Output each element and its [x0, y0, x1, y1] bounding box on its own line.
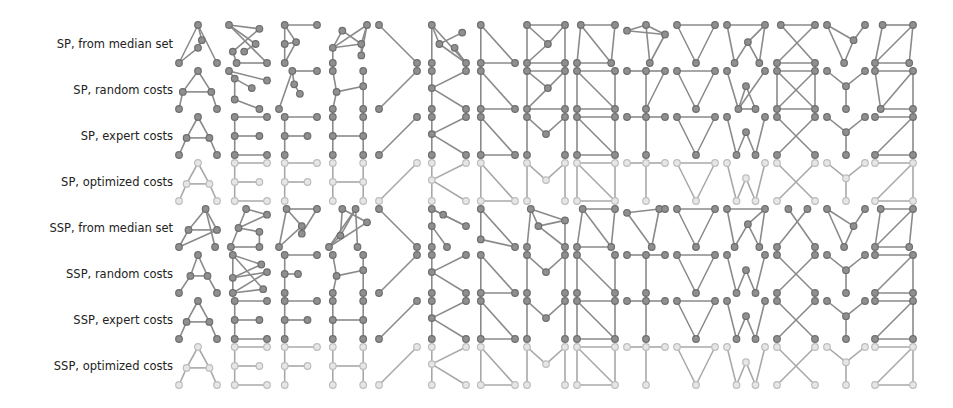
- graph-node: [231, 75, 238, 82]
- graph-node: [712, 160, 719, 167]
- graph-node: [535, 223, 542, 230]
- graph-node: [214, 382, 221, 389]
- graph-node: [291, 81, 298, 88]
- graph-node: [743, 129, 750, 136]
- graph-edge: [577, 209, 583, 247]
- graph-node: [429, 131, 436, 138]
- glyph-grid: [0, 0, 953, 408]
- glyph-w: [724, 252, 769, 297]
- graph-node: [574, 198, 581, 205]
- graph-node: [304, 179, 311, 186]
- graph-node: [376, 382, 383, 389]
- graph-node: [281, 160, 288, 167]
- graph-edge: [611, 209, 615, 247]
- graph-edge: [727, 255, 737, 293]
- graph-edge: [696, 25, 715, 63]
- graph-node: [376, 22, 383, 29]
- graph-node: [330, 298, 337, 305]
- graph-node: [358, 41, 365, 48]
- graph-node: [862, 344, 869, 351]
- graph-node: [674, 68, 681, 75]
- graph-edge: [279, 71, 292, 109]
- graph-node: [910, 68, 917, 75]
- graph-node: [314, 252, 321, 259]
- graph-node: [429, 223, 436, 230]
- graph-node: [524, 68, 531, 75]
- glyph-l: [478, 206, 519, 251]
- graph-node: [724, 252, 731, 259]
- graph-node: [643, 336, 650, 343]
- graph-node: [512, 382, 519, 389]
- glyph-h: [330, 252, 367, 297]
- graph-node: [281, 152, 288, 159]
- graph-edge: [677, 209, 696, 247]
- graph-node: [524, 198, 531, 205]
- graph-node: [414, 252, 421, 259]
- graph-node: [910, 298, 917, 305]
- graph-node: [724, 22, 731, 29]
- graph-node: [212, 244, 219, 251]
- graph-node: [612, 68, 619, 75]
- graph-node: [524, 290, 531, 297]
- graph-node: [231, 114, 238, 121]
- graph-edge: [581, 25, 611, 63]
- graph-node: [712, 22, 719, 29]
- graph-node: [463, 290, 470, 297]
- graph-node: [360, 68, 367, 75]
- graph-node: [264, 382, 271, 389]
- graph-edge: [337, 270, 364, 276]
- graph-node: [824, 344, 831, 351]
- graph-node: [364, 219, 371, 226]
- graph-edge: [756, 255, 766, 293]
- graph-node: [230, 290, 237, 297]
- graph-node: [872, 298, 879, 305]
- graph-node: [733, 336, 740, 343]
- graph-edge: [727, 301, 737, 339]
- graph-node: [662, 160, 669, 167]
- graph-node: [304, 317, 311, 324]
- glyph-x: [774, 298, 819, 343]
- graph-node: [243, 206, 250, 213]
- graph-node: [843, 198, 850, 205]
- graph-node: [643, 106, 650, 113]
- graph-node: [512, 336, 519, 343]
- graph-node: [299, 223, 306, 230]
- graph-node: [910, 290, 917, 297]
- graph-node: [841, 244, 848, 251]
- graph-node: [574, 152, 581, 159]
- graph-node: [752, 106, 759, 113]
- graph-edge: [727, 163, 737, 201]
- graph-node: [360, 317, 367, 324]
- graph-node: [872, 244, 879, 251]
- graph-node: [339, 206, 346, 213]
- graph-edge: [432, 163, 466, 180]
- graph-node: [176, 60, 183, 67]
- graph-node: [843, 175, 850, 182]
- graph-edge: [379, 25, 417, 63]
- graph-node: [733, 152, 740, 159]
- glyph-t: [624, 68, 669, 113]
- graph-node: [843, 382, 850, 389]
- graph-edge: [527, 71, 548, 88]
- graph-node: [204, 273, 211, 280]
- graph-node: [231, 298, 238, 305]
- graph-node: [199, 37, 206, 44]
- graph-edge: [527, 25, 548, 44]
- graph-node: [360, 267, 367, 274]
- graph-node: [574, 252, 581, 259]
- graph-node: [612, 290, 619, 297]
- graph-node: [478, 198, 485, 205]
- graph-node: [724, 114, 731, 121]
- glyph-e: [226, 68, 271, 113]
- graph-node: [910, 160, 917, 167]
- graph-node: [812, 114, 819, 121]
- glyph-k: [429, 114, 470, 159]
- graph-node: [429, 68, 436, 75]
- graph-node: [463, 336, 470, 343]
- glyph-f: [281, 252, 320, 297]
- graph-node: [314, 298, 321, 305]
- graph-node: [843, 129, 850, 136]
- glyph-v: [674, 68, 719, 113]
- graph-edge: [432, 180, 466, 201]
- glyph-t: [624, 298, 669, 343]
